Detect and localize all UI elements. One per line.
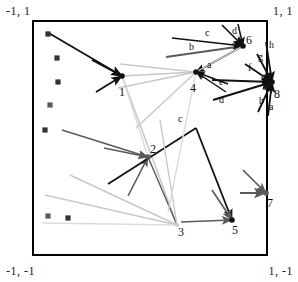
edge-label-node-5-c-12: c <box>178 113 183 124</box>
node-point-8[interactable] <box>269 79 275 85</box>
nodes-layer <box>119 43 275 227</box>
node-label-4: 4 <box>190 81 196 95</box>
square-marker-1 <box>45 31 50 36</box>
node-label-1: 1 <box>119 85 125 99</box>
corner-label-top-left: -1, 1 <box>6 4 31 19</box>
edge-label-node-8-b-10: b <box>259 95 264 106</box>
edge-to-5-a <box>196 128 232 220</box>
edge-to-6-b <box>166 46 243 57</box>
markers-layer <box>42 31 70 220</box>
node-point-6[interactable] <box>240 43 246 49</box>
node-label-3: 3 <box>178 225 184 239</box>
diagram-canvas: 12345678 cdbaedfghbac -1, 1 1, 1 -1, -1 … <box>0 0 298 282</box>
edge-to-6-c <box>172 38 243 46</box>
edge-3-from-l2 <box>42 223 177 225</box>
square-marker-5 <box>42 127 47 132</box>
edge-to-2-c <box>128 157 148 196</box>
edge-4-left-1 <box>120 64 196 72</box>
edge-to-7-b <box>243 170 266 193</box>
node-label-2: 2 <box>150 142 156 156</box>
node-label-5: 5 <box>232 223 238 237</box>
edge-to-1-mid <box>92 60 122 76</box>
node-point-4[interactable] <box>193 69 199 75</box>
node-label-8: 8 <box>274 87 280 101</box>
edge-to-2-a <box>62 130 148 157</box>
edge-label-node-8-g-8: g <box>258 51 263 62</box>
edge-label-node-6-c-1: c <box>205 27 210 38</box>
edge-3-from-l1 <box>45 195 177 225</box>
corner-label-top-right: 1, 1 <box>273 4 293 19</box>
edge-label-node-8-h-9: h <box>269 39 274 50</box>
node-point-1[interactable] <box>119 73 125 79</box>
square-marker-7 <box>65 215 70 220</box>
edge-to-5-c <box>181 220 232 222</box>
edges-layer <box>42 24 272 225</box>
edge-label-node-6-d-2: d <box>232 25 237 36</box>
corner-label-bottom-right: 1, -1 <box>269 264 294 279</box>
square-marker-2 <box>54 55 59 60</box>
edge-1-to-2b <box>122 76 148 157</box>
node-label-6: 6 <box>246 33 252 47</box>
edge-label-node-8-d-6: d <box>219 94 224 105</box>
node-point-7[interactable] <box>263 190 269 196</box>
edge-label-node-6-b-3: b <box>189 41 194 52</box>
edge-label-node-8-e-5: e <box>219 76 224 87</box>
node-point-5[interactable] <box>229 217 235 223</box>
square-marker-6 <box>45 213 50 218</box>
arrow-diagram-svg: 12345678 cdbaedfghbac <box>0 0 298 282</box>
edge-label-node-8-a-11: a <box>269 101 274 112</box>
edge-label-node-4-a-4: a <box>207 59 212 70</box>
node-label-7: 7 <box>267 196 273 210</box>
corner-label-bottom-left: -1, -1 <box>6 264 35 279</box>
square-marker-4 <box>47 102 52 107</box>
square-marker-3 <box>55 79 60 84</box>
